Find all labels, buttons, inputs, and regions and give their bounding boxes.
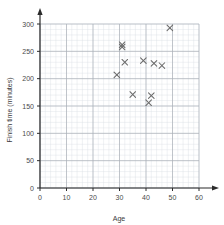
- data-points: [114, 25, 173, 105]
- data-point-marker: [141, 58, 147, 64]
- x-tick-label: 50: [169, 194, 177, 201]
- x-tick-label: 40: [142, 194, 150, 201]
- y-tick-label: 100: [22, 130, 34, 137]
- data-point-marker: [151, 61, 157, 67]
- x-tick-label: 20: [89, 194, 97, 201]
- axes: [37, 8, 219, 191]
- x-axis-title: Age: [113, 215, 126, 223]
- y-axis-title: Finish time (minutes): [6, 78, 14, 143]
- x-tick-label: 10: [63, 194, 71, 201]
- data-point-marker: [114, 72, 120, 78]
- x-tick-label: 60: [195, 194, 203, 201]
- x-tick-label: 0: [38, 194, 42, 201]
- x-tick-label: 30: [116, 194, 124, 201]
- grid-major: [40, 24, 199, 188]
- data-point-marker: [167, 25, 173, 31]
- y-tick-label: 150: [22, 103, 34, 110]
- y-tick-label: 0: [30, 185, 34, 192]
- y-tick-label: 250: [22, 48, 34, 55]
- scatter-chart: 0102030405060 050100150200250300 Age Fin…: [0, 0, 224, 225]
- data-point-marker: [146, 100, 152, 106]
- y-tick-label: 300: [22, 21, 34, 28]
- data-point-marker: [130, 92, 136, 98]
- chart-canvas: 0102030405060 050100150200250300 Age Fin…: [0, 0, 224, 225]
- y-tick-label: 200: [22, 75, 34, 82]
- x-tick-labels: 0102030405060: [38, 194, 203, 201]
- y-tick-labels: 050100150200250300: [22, 21, 34, 192]
- y-tick-label: 50: [26, 157, 34, 164]
